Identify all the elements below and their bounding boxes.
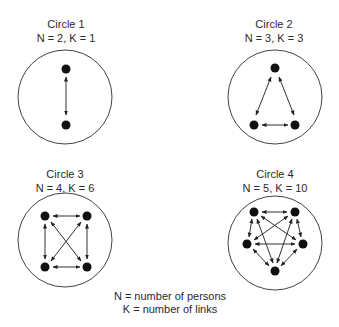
circle-3-group: Circle 3 N = 4, K = 6	[18, 168, 112, 287]
person-node	[62, 121, 71, 130]
link	[261, 216, 296, 240]
legend-line-persons: N = number of persons	[114, 290, 227, 302]
person-node	[250, 121, 259, 130]
person-node	[83, 263, 92, 272]
person-node	[62, 65, 71, 74]
circle-1-subtitle: N = 2, K = 1	[37, 32, 96, 44]
person-node	[83, 212, 92, 221]
person-node	[250, 208, 259, 217]
circle-2-subtitle: N = 3, K = 3	[245, 32, 304, 44]
circle-4-subtitle: N = 5, K = 10	[243, 182, 308, 194]
person-node	[271, 267, 280, 276]
circle-1-boundary	[18, 50, 112, 144]
circle-1-group: Circle 1 N = 2, K = 1	[18, 18, 112, 144]
person-node	[291, 121, 300, 130]
circle-2-group: Circle 2 N = 3, K = 3	[228, 18, 322, 144]
link	[279, 77, 294, 115]
link	[249, 219, 252, 237]
link	[297, 219, 301, 237]
circle-1-title: Circle 1	[47, 18, 84, 30]
person-node	[41, 263, 50, 272]
link	[281, 249, 297, 266]
network-diagram: Circle 1 N = 2, K = 1 Circle 2 N = 3, K …	[0, 0, 339, 327]
circle-4-group: Circle 4 N = 5, K = 10	[228, 168, 322, 290]
circle-4-boundary	[228, 196, 322, 290]
link	[256, 77, 271, 115]
person-node	[41, 212, 50, 221]
link	[253, 249, 269, 266]
link	[254, 216, 288, 240]
circle-3-title: Circle 3	[46, 168, 83, 180]
person-node	[299, 240, 308, 249]
person-node	[271, 64, 280, 73]
legend: N = number of persons K = number of link…	[114, 290, 227, 315]
person-node	[243, 240, 252, 249]
circle-2-title: Circle 2	[255, 18, 292, 30]
person-node	[291, 208, 300, 217]
circle-4-title: Circle 4	[256, 168, 293, 180]
circle-3-subtitle: N = 4, K = 6	[36, 182, 95, 194]
legend-line-links: K = number of links	[123, 303, 218, 315]
